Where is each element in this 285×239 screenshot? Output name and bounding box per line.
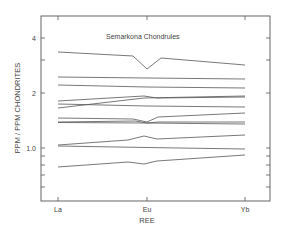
- y-axis-title: PPM / PPM CHONDRITES: [13, 63, 22, 153]
- y-tick-label-4: 4: [32, 35, 36, 42]
- series-line-11: [58, 146, 245, 149]
- x-tick-label-yb: Yb: [241, 206, 250, 213]
- series-line-9: [58, 123, 245, 125]
- y-tick-label-1: 1.0: [26, 145, 36, 152]
- left-y-ticks: [41, 38, 45, 187]
- plot-frame: [41, 16, 270, 201]
- series-line-10: [58, 135, 245, 145]
- series-line-7: [58, 113, 245, 122]
- series-lines: [58, 52, 245, 167]
- x-ticks: [58, 16, 245, 201]
- series-line-6: [58, 104, 245, 107]
- ree-chart: Semarkona Chondrules 4 2 1.0 PPM / PPM C…: [0, 0, 285, 239]
- chart-title: Semarkona Chondrules: [106, 33, 180, 40]
- series-line-1: [58, 52, 245, 69]
- y-tick-label-2: 2: [32, 90, 36, 97]
- x-axis-title: REE: [139, 216, 154, 225]
- x-tick-label-la: La: [54, 206, 62, 213]
- x-tick-label-eu: Eu: [143, 206, 152, 213]
- right-y-ticks: [266, 38, 270, 187]
- series-line-3: [58, 85, 245, 88]
- series-line-2: [58, 77, 245, 79]
- series-line-12: [58, 155, 245, 167]
